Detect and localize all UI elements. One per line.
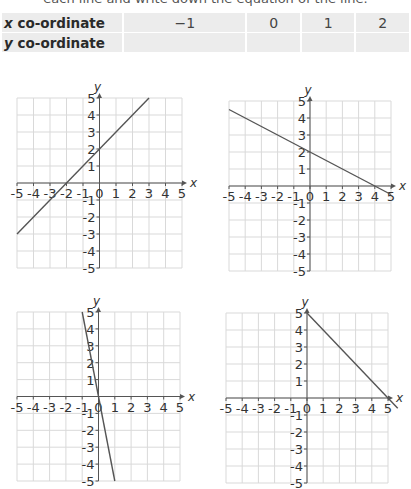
x-axis-arrow-icon [182,181,187,186]
x-axis-label: x [395,391,404,405]
y-tick-label: -3 [290,442,303,457]
x-tick-label: 0 [95,186,103,201]
x-coordinate-row: x co-ordinate −1 0 1 2 [2,13,409,32]
x-tick-label: -3 [255,189,268,204]
x-tick-label: 2 [127,400,135,415]
y-tick-label: 3 [295,340,303,355]
y-tick-label: -5 [82,474,95,489]
y-tick-label: 1 [86,373,94,388]
x-tick-label: 3 [351,401,359,416]
graph-svg: -5-4-3-2-1012345-5-4-3-2-112345xy [1,82,198,284]
graph-d: -5-4-3-2-1012345-5-4-3-2-112345xy [210,297,404,489]
table-cell-input[interactable] [124,33,245,52]
x-tick-label: -2 [59,400,72,415]
y-tick-label: -5 [293,264,306,279]
x-tick-label: 5 [178,186,186,201]
x-tick-label: -3 [44,186,57,201]
variable-x: x [4,15,13,31]
x-tick-label: 1 [322,189,330,204]
y-tick-label: -3 [293,230,306,245]
x-tick-label: -3 [252,401,265,416]
y-axis-label: y [92,296,101,308]
y-tick-label: 4 [298,111,306,126]
table-cell: −1 [124,13,245,32]
y-tick-label: -3 [83,227,96,242]
x-axis-label: x [187,390,196,404]
x-axis-label: x [189,176,198,190]
graph-a: -5-4-3-2-1012345-5-4-3-2-112345xy [1,82,198,288]
y-tick-label: -3 [82,440,95,455]
x-tick-label: 4 [161,186,169,201]
row-label: y co-ordinate [2,33,122,52]
x-tick-label: -3 [43,400,56,415]
y-tick-label: 1 [295,374,303,389]
x-tick-label: 2 [128,186,136,201]
y-axis-label: y [300,297,309,309]
table-cell-input[interactable] [302,33,355,52]
graph-svg: -5-4-3-2-1012345-5-4-3-2-112345xy [210,297,404,489]
x-axis-arrow-icon [180,394,185,399]
row-label-text: co-ordinate [13,35,105,51]
table-cell: 1 [302,13,355,32]
graph-svg: -5-4-3-2-1012345-5-4-3-2-112345xy [1,296,196,489]
x-axis-arrow-icon [391,184,396,189]
x-tick-label: -4 [236,401,249,416]
y-tick-label: -2 [290,425,303,440]
y-axis-label: y [93,82,102,94]
graph-b: -5-4-3-2-1012345-5-4-3-2-112345xy [213,85,407,291]
graph-svg: -5-4-3-2-1012345-5-4-3-2-112345xy [213,85,407,287]
y-axis-label: y [303,85,312,97]
x-tick-label: 3 [354,189,362,204]
y-tick-label: -1 [82,406,95,421]
graph-c: -5-4-3-2-1012345-5-4-3-2-112345xy [1,296,196,489]
table-cell-input[interactable] [356,33,409,52]
y-tick-label: -4 [82,457,95,472]
y-tick-label: 4 [87,108,95,123]
x-tick-label: -4 [27,400,40,415]
x-tick-label: 4 [160,400,168,415]
x-tick-label: -5 [11,400,24,415]
coordinate-table: x co-ordinate −1 0 1 2 y co-ordinate [0,12,411,53]
y-tick-label: -1 [83,193,96,208]
x-tick-label: -2 [268,401,281,416]
y-tick-label: 3 [87,125,95,140]
y-tick-label: 4 [86,322,94,337]
x-axis-label: x [398,179,407,193]
x-tick-label: 1 [112,186,120,201]
x-tick-label: 1 [111,400,119,415]
x-tick-label: -2 [271,189,284,204]
y-tick-label: -2 [83,210,96,225]
table-cell: 0 [247,13,300,32]
table-cell: 2 [356,13,409,32]
x-tick-label: -4 [239,189,252,204]
row-label-text: co-ordinate [13,15,105,31]
table-cell-input[interactable] [247,33,300,52]
plotted-line [307,313,398,408]
instruction-text: each line and write down the equation of… [0,0,411,6]
y-tick-label: -1 [293,196,306,211]
x-tick-label: -5 [11,186,24,201]
y-tick-label: 4 [295,323,303,338]
x-tick-label: 2 [335,401,343,416]
y-tick-label: -4 [293,247,306,262]
x-tick-label: 3 [145,186,153,201]
x-tick-label: -5 [223,189,236,204]
x-tick-label: 1 [319,401,327,416]
x-tick-label: 4 [368,401,376,416]
x-tick-label: 5 [384,401,392,416]
y-tick-label: -2 [293,213,306,228]
y-tick-label: -2 [82,423,95,438]
row-label: x co-ordinate [2,13,122,32]
variable-y: y [4,35,13,51]
y-tick-label: 2 [295,357,303,372]
y-tick-label: -1 [290,408,303,423]
x-tick-label: 5 [176,400,184,415]
x-tick-label: 4 [371,189,379,204]
x-tick-label: 0 [306,189,314,204]
x-tick-label: 2 [338,189,346,204]
x-tick-label: 3 [143,400,151,415]
y-coordinate-row: y co-ordinate [2,33,409,52]
y-tick-label: 3 [298,128,306,143]
y-tick-label: -4 [83,244,96,259]
x-tick-label: 0 [303,401,311,416]
